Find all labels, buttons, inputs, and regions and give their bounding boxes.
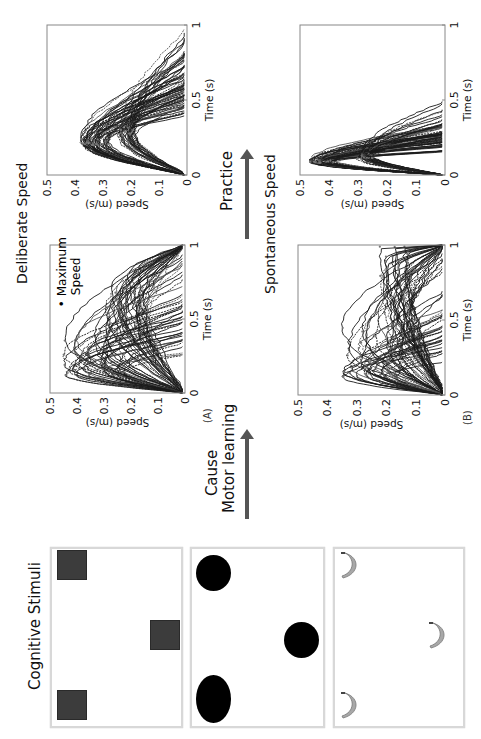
max-speed-marker xyxy=(118,136,120,138)
y-tick-label: 0 xyxy=(179,397,192,404)
y-tick-label: 0.4 xyxy=(321,399,334,417)
max-speed-marker xyxy=(374,335,376,337)
max-speed-marker xyxy=(125,286,127,288)
speed-plot-B-spontaneous-before: 00.51Time (s)00.10.20.30.40.5Speed (m/s)… xyxy=(292,233,481,429)
max-speed-marker xyxy=(63,364,65,366)
spontaneous-speed-label: Spontaneous Speed xyxy=(262,174,278,294)
x-tick-label: 0 xyxy=(448,172,461,179)
y-tick-label: 0.3 xyxy=(98,397,111,415)
cause-text: Cause xyxy=(204,433,221,513)
max-speed-marker xyxy=(342,327,344,329)
x-tick-label: 0 xyxy=(190,172,203,179)
max-speed-marker xyxy=(87,350,89,352)
panel-tag: (B) xyxy=(462,410,473,425)
max-speed-marker xyxy=(315,161,317,163)
max-speed-marker xyxy=(124,313,126,315)
max-speed-marker xyxy=(329,159,331,161)
y-tick-label: 0.3 xyxy=(352,179,365,197)
y-tick-label: 0.1 xyxy=(410,179,423,197)
x-axis-label: Time (s) xyxy=(203,79,215,123)
max-speed-marker xyxy=(332,161,334,163)
max-speed-marker xyxy=(394,266,396,268)
banana-icon xyxy=(339,692,365,720)
max-speed-marker xyxy=(88,374,90,376)
max-speed-marker xyxy=(379,246,381,248)
max-speed-marker xyxy=(365,374,367,376)
banana-icon xyxy=(427,622,453,650)
circle-stimulus xyxy=(196,555,231,591)
x-axis-label: Time (s) xyxy=(461,299,473,343)
max-speed-marker xyxy=(349,372,351,374)
stimuli-panel-bananas xyxy=(333,547,465,728)
max-speed-marker xyxy=(128,132,130,134)
max-speed-marker xyxy=(407,316,409,318)
max-speed-marker xyxy=(406,253,408,255)
deliberate-speed-label: Deliberate Speed xyxy=(14,184,30,284)
max-speed-marker xyxy=(93,140,95,142)
x-axis-label: Time (s) xyxy=(201,298,213,342)
y-tick-label: 0.2 xyxy=(125,179,138,197)
figure-frame: Cognitive Stimuli Cause Motor learning P… xyxy=(0,0,481,739)
max-speed-marker xyxy=(379,374,381,376)
banana-icon xyxy=(339,552,365,580)
max-speed-marker xyxy=(347,354,349,356)
max-speed-marker xyxy=(411,316,413,318)
speed-plot-A-deliberate-after: 00.51Time (s)00.10.20.30.40.5Speed (m/s) xyxy=(41,13,223,209)
x-tick-label: 1 xyxy=(190,22,203,29)
y-tick-label: 0.5 xyxy=(294,179,307,197)
x-tick-label: 0 xyxy=(188,390,201,397)
stimuli-title: Cognitive Stimuli xyxy=(26,562,44,690)
motor-learning-label: Cause Motor learning xyxy=(204,433,238,513)
y-axis-label: Speed (m/s) xyxy=(85,199,149,211)
max-speed-marker xyxy=(385,260,387,262)
y-tick-label: 0 xyxy=(181,179,194,186)
legend-max-speed: • Maximum xyxy=(55,237,69,307)
y-tick-label: 0.3 xyxy=(351,399,364,417)
y-tick-label: 0 xyxy=(439,399,452,406)
y-tick-label: 0.5 xyxy=(44,397,57,415)
y-tick-label: 0.2 xyxy=(380,399,393,417)
max-speed-marker xyxy=(119,346,121,348)
max-speed-marker xyxy=(65,374,67,376)
max-speed-marker xyxy=(397,307,399,309)
y-tick-label: 0 xyxy=(439,179,452,186)
x-tick-label: 0.5 xyxy=(188,310,201,328)
max-speed-marker xyxy=(363,156,365,158)
max-speed-marker xyxy=(84,143,86,145)
max-speed-marker xyxy=(309,161,311,163)
y-tick-label: 0.1 xyxy=(410,399,423,417)
max-speed-marker xyxy=(398,356,400,358)
x-tick-label: 0 xyxy=(448,392,461,399)
y-axis-label: Speed (m/s) xyxy=(86,417,150,429)
circle-stimulus xyxy=(196,675,231,723)
max-speed-marker xyxy=(91,144,93,146)
max-speed-marker xyxy=(386,366,388,368)
max-speed-marker xyxy=(343,371,345,373)
y-tick-label: 0.5 xyxy=(41,179,54,197)
max-speed-marker xyxy=(82,143,84,145)
max-speed-marker xyxy=(356,375,358,377)
motor-learning-text: Motor learning xyxy=(221,433,238,513)
max-speed-marker xyxy=(406,271,408,273)
max-speed-marker xyxy=(385,256,387,258)
max-speed-marker xyxy=(342,376,344,378)
motor-learning-arrow-icon xyxy=(245,437,249,519)
max-speed-marker xyxy=(125,131,127,133)
max-speed-marker xyxy=(386,268,388,270)
max-speed-marker xyxy=(122,372,124,374)
max-speed-marker xyxy=(141,301,143,303)
y-tick-label: 0.1 xyxy=(152,397,165,415)
max-speed-marker xyxy=(106,137,108,139)
y-tick-label: 0.3 xyxy=(97,179,110,197)
x-tick-label: 1 xyxy=(448,242,461,249)
y-tick-label: 0.4 xyxy=(69,179,82,197)
max-speed-marker xyxy=(366,157,368,159)
x-axis-label: Time (s) xyxy=(461,79,473,123)
x-tick-label: 0.5 xyxy=(448,91,461,109)
max-speed-marker xyxy=(384,312,386,314)
speed-plot-B-spontaneous-after: 00.51Time (s)00.10.20.30.40.5Speed (m/s) xyxy=(294,13,481,209)
max-speed-marker xyxy=(97,138,99,140)
x-tick-label: 1 xyxy=(448,22,461,29)
stimuli-panel-circles xyxy=(190,547,325,728)
y-tick-label: 0.4 xyxy=(323,179,336,197)
